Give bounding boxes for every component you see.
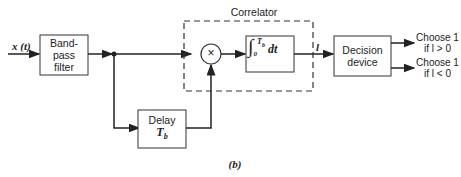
correlator-title: Correlator — [224, 6, 284, 18]
delay-tb: Tb — [138, 126, 186, 143]
decision-line2: device — [334, 56, 391, 68]
bandpass-line2: pass — [40, 49, 88, 61]
decision-line1: Decision — [334, 44, 391, 56]
multiplier-symbol: × — [201, 47, 221, 59]
decision-device-block: Decision device — [334, 44, 391, 68]
output1-line2: if l > 0 — [414, 43, 461, 54]
bandpass-line1: Band- — [40, 37, 88, 49]
output1-line1: Choose 1 — [414, 32, 461, 43]
output2-line2: if l < 0 — [414, 68, 461, 79]
bandpass-line3: filter — [40, 61, 88, 73]
block-diagram-lines — [0, 0, 461, 177]
figure-caption: (b) — [220, 158, 250, 170]
integrator-block: ∫0Tb dt — [248, 40, 294, 60]
output2-line1: Choose 1 — [414, 57, 461, 68]
correlator-output-label: l — [316, 41, 319, 53]
output-choice-1: Choose 1 if l > 0 — [414, 32, 461, 54]
output-choice-2: Choose 1 if l < 0 — [414, 57, 461, 79]
delay-block: Delay Tb — [138, 114, 186, 143]
bandpass-filter-block: Band- pass filter — [40, 37, 88, 73]
input-signal-label: x (t) — [12, 40, 31, 52]
